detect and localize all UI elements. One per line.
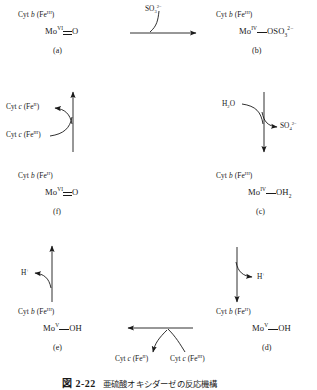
state-e-molybdenum: MoVOH xyxy=(43,324,82,333)
state-f: Cyt b (FeII) MoVIO (f) xyxy=(18,172,78,216)
label-cytc-oxidized-bottom: Cyt c (FeIII) xyxy=(170,354,205,363)
label-cytc-oxidized-left: Cyt c (FeIII) xyxy=(6,130,41,139)
state-b: Cyt b (FeIII) MoIVOSO32− (b) xyxy=(216,11,293,55)
state-f-tag: (f) xyxy=(53,208,78,216)
state-d: Cyt b (FeII) MoVOH (d) xyxy=(216,308,291,352)
state-d-cytochrome: Cyt b (FeII) xyxy=(216,308,291,315)
state-b-cytochrome: Cyt b (FeIII) xyxy=(216,11,293,18)
label-cytc-reduced-left: Cyt c (FeII) xyxy=(6,102,39,111)
single-bond-icon xyxy=(266,190,276,197)
double-bond-icon xyxy=(63,29,72,36)
state-a-molybdenum: MoVIO xyxy=(45,27,78,36)
state-c-cytochrome: Cyt b (FeIII) xyxy=(216,172,291,179)
state-b-molybdenum: MoIVOSO32− xyxy=(239,27,293,36)
figure-caption-number: 図 2-22 xyxy=(62,378,96,389)
state-e-cytochrome: Cyt b (FeIII) xyxy=(18,308,82,315)
state-c-tag: (c) xyxy=(256,208,291,216)
label-water: H2O xyxy=(222,99,235,108)
label-sulfite: SO32− xyxy=(145,4,162,13)
curve-water-in xyxy=(242,104,263,124)
curve-cytc-red-bottom-out xyxy=(153,330,167,352)
double-bond-icon xyxy=(63,190,72,197)
state-e-tag: (e) xyxy=(53,344,82,352)
single-bond-icon xyxy=(257,29,267,36)
state-d-tag: (d) xyxy=(262,344,291,352)
curve-cytc-red-left-out xyxy=(55,108,72,124)
curve-sulfate-out xyxy=(262,112,277,127)
curve-proton-right-out xyxy=(236,262,252,277)
state-a-tag: (a) xyxy=(53,47,78,55)
label-cytc-reduced-bottom: Cyt c (FeII) xyxy=(115,354,148,363)
figure-caption: 図 2-22亜硫酸オキシダーゼの反応機構 xyxy=(62,375,218,390)
state-a-cytochrome: Cyt b (FeIII) xyxy=(18,11,78,18)
curve-proton-left-out xyxy=(35,273,51,288)
state-b-tag: (b) xyxy=(252,47,293,55)
curve-cytc-ox-bottom-in xyxy=(168,329,185,352)
single-bond-icon xyxy=(268,326,278,333)
state-e: Cyt b (FeIII) MoVOH (e) xyxy=(18,308,82,352)
label-sulfate: SO42− xyxy=(280,121,297,130)
curve-cytc-ox-left-in xyxy=(50,117,72,136)
state-c-molybdenum: MoIVOH2 xyxy=(248,188,291,197)
single-bond-icon xyxy=(59,326,69,333)
figure-caption-text: 亜硫酸オキシダーゼの反応機構 xyxy=(103,380,218,389)
state-a: Cyt b (FeIII) MoVIO (a) xyxy=(18,11,78,55)
state-f-cytochrome: Cyt b (FeII) xyxy=(18,172,78,179)
state-f-molybdenum: MoVIO xyxy=(45,188,78,197)
state-d-molybdenum: MoVOH xyxy=(252,324,291,333)
label-proton-left: H+ xyxy=(21,268,29,277)
state-c: Cyt b (FeIII) MoIVOH2 (c) xyxy=(216,172,291,216)
label-proton-right: H+ xyxy=(257,272,265,281)
